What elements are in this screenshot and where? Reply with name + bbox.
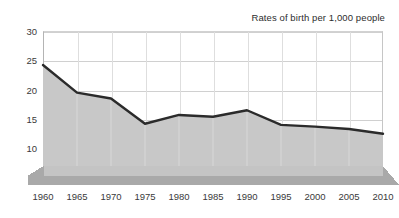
x-axis-tick-label: 1990	[236, 191, 257, 202]
y-axis-tick-label: 10	[11, 143, 37, 154]
x-axis-tick-label: 2000	[304, 191, 325, 202]
y-axis-tick-label: 30	[11, 26, 37, 37]
x-axis-tick-label: 1995	[270, 191, 291, 202]
x-axis-tick-label: 1965	[66, 191, 87, 202]
x-axis-tick-label: 1960	[32, 191, 53, 202]
series-area	[43, 31, 383, 166]
x-axis-tick-label: 2005	[338, 191, 359, 202]
x-axis-tick-label: 2010	[372, 191, 393, 202]
x-axis-tick-label: 1985	[202, 191, 223, 202]
y-axis-tick-label: 20	[11, 84, 37, 95]
chart-title: Rates of birth per 1,000 people	[251, 12, 385, 23]
y-axis-tick-label: 15	[11, 114, 37, 125]
x-axis-tick-label: 1980	[168, 191, 189, 202]
x-axis-tick-label: 1975	[134, 191, 155, 202]
base-platform-front	[28, 176, 384, 185]
base-platform-right-edge	[383, 166, 399, 185]
x-axis-tick-label: 1970	[100, 191, 121, 202]
base-platform-top	[43, 166, 384, 176]
y-axis-tick-label: 25	[11, 55, 37, 66]
base-platform-left-edge	[28, 166, 44, 176]
